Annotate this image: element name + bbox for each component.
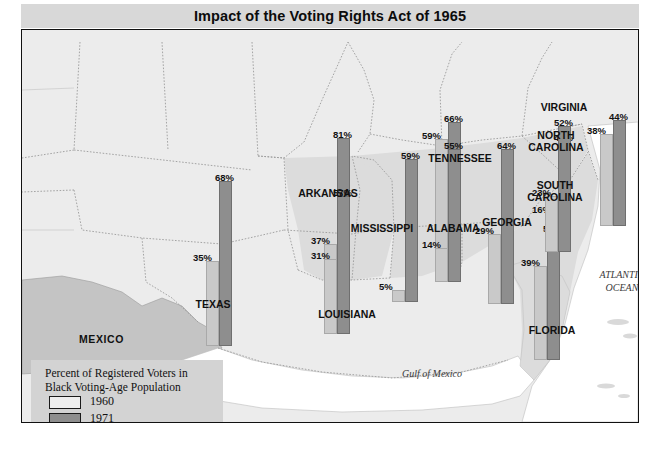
bar-1960-virginia	[545, 196, 558, 252]
legend: Percent of Registered Voters in Black Vo…	[31, 360, 223, 423]
value-label-1960-alabama: 14%	[422, 239, 441, 250]
value-label-1960-louisiana: 31%	[311, 250, 330, 261]
state-label-florida: FLORIDA	[519, 324, 585, 336]
legend-label-1960: 1960	[90, 394, 114, 409]
map-infographic: Impact of the Voting Rights Act of 1965	[0, 0, 660, 452]
bar-1971-texas	[219, 181, 232, 346]
bar-pair-alabama: 14%55%	[435, 149, 461, 282]
water-label-gulf-of-mexico: Gulf of Mexico	[377, 367, 487, 380]
value-label-1971-tennessee: 66%	[444, 113, 463, 124]
bar-pair-texas: 35%68%	[206, 181, 232, 346]
water-label-atlantic-ocean: ATLANTICOCEAN	[582, 268, 639, 294]
bar-1971-alabama	[448, 149, 461, 282]
value-label-1960-texas: 35%	[193, 252, 212, 263]
value-label-1971-georgia: 64%	[497, 140, 516, 151]
state-label-virginia: VIRGINIA	[530, 101, 598, 113]
bar-pair-north-carolina: 38%44%	[600, 120, 626, 226]
value-label-1971-texas: 68%	[215, 172, 234, 183]
state-label-arkansas: ARKANSAS	[290, 187, 366, 199]
state-label-south-carolina: SOUTHCAROLINA	[516, 179, 594, 203]
value-label-1960-tennessee: 59%	[422, 130, 441, 141]
value-label-1971-arkansas: 81%	[333, 129, 352, 140]
state-label-tennessee: TENNESSEE	[417, 152, 503, 164]
page-title: Impact of the Voting Rights Act of 1965	[194, 8, 466, 24]
legend-title-line1: Percent of Registered Voters in	[45, 367, 188, 379]
value-label-1971-virginia: 52%	[554, 117, 573, 128]
state-label-north-carolina: NORTHCAROLINA	[517, 129, 595, 153]
bar-1971-north-carolina	[613, 120, 626, 226]
bar-1960-north-carolina	[600, 134, 613, 226]
bar-1960-mississippi	[392, 290, 405, 302]
bar-1960-florida	[534, 266, 547, 360]
legend-swatch-1960	[49, 396, 81, 409]
state-label-texas: TEXAS	[183, 298, 243, 310]
legend-swatch-1971	[49, 413, 81, 423]
state-label-louisiana: LOUISIANA	[309, 308, 385, 320]
legend-label-1971: 1971	[90, 411, 114, 423]
bar-1960-georgia	[488, 234, 501, 304]
legend-title: Percent of Registered Voters in Black Vo…	[45, 366, 220, 394]
value-label-1971-alabama: 55%	[444, 140, 463, 151]
map-frame: 35%68%37%81%31%57%5%59%59%66%14%55%29%64…	[21, 29, 639, 423]
value-label-1971-north-carolina: 44%	[609, 111, 628, 122]
state-label-georgia: GEORGIA	[473, 216, 541, 228]
bar-1960-louisiana	[324, 259, 337, 334]
legend-title-line2: Black Voting-Age Population	[45, 381, 181, 393]
state-label-mississippi: MISSISSIPPI	[342, 222, 422, 234]
title-band: Impact of the Voting Rights Act of 1965	[21, 4, 639, 28]
value-label-1960-florida: 39%	[521, 257, 540, 268]
country-label-mexico: MEXICO	[79, 333, 124, 345]
value-label-1960-mississippi: 5%	[379, 281, 393, 292]
bar-1960-alabama	[435, 248, 448, 282]
